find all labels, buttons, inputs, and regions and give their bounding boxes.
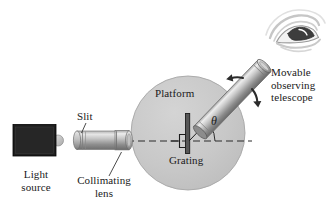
collimating-lens-label: Collimating lens	[62, 174, 146, 199]
light-source-label-line2: source	[8, 181, 64, 194]
telescope-label-line1: Movable	[271, 66, 315, 79]
grating-label: Grating	[169, 154, 203, 167]
platform-label: Platform	[155, 87, 194, 100]
light-source-label-line1: Light	[8, 168, 64, 181]
collimating-tube	[73, 131, 132, 150]
collimating-lens-label-line2: lens	[62, 187, 146, 200]
angle-theta-label: θ	[211, 115, 217, 128]
slit-label: Slit	[77, 110, 93, 123]
collimating-lens-label-line1: Collimating	[62, 174, 146, 187]
telescope-label-line2: observing	[271, 79, 315, 92]
observer-eye	[266, 10, 325, 51]
light-source-label: Light source	[8, 168, 64, 193]
light-source	[13, 125, 64, 157]
telescope-label-line3: telescope	[271, 91, 315, 104]
grating-spectrometer-figure: Light source Slit Collimating lens Platf…	[0, 0, 330, 221]
telescope-label: Movable observing telescope	[271, 66, 315, 104]
